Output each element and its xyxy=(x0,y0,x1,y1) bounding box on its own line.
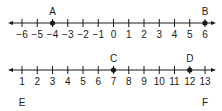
tick-label: −6 xyxy=(16,30,27,40)
tick-label: 7 xyxy=(111,77,117,87)
point-label-f: F xyxy=(202,98,208,108)
point-label-b: B xyxy=(202,7,209,17)
tick-label: 5 xyxy=(80,77,86,87)
tick-label: 6 xyxy=(95,77,101,87)
tick-label: 10 xyxy=(154,77,165,87)
tick-label: 4 xyxy=(172,30,178,40)
tick-label: 3 xyxy=(156,30,162,40)
point-label-d: D xyxy=(186,54,193,64)
arrow-left-icon xyxy=(8,68,13,72)
tick-label: −3 xyxy=(62,30,73,40)
tick-label: 0 xyxy=(111,30,117,40)
tick-label: 4 xyxy=(65,77,71,87)
arrow-right-icon xyxy=(211,21,216,25)
tick-label: 12 xyxy=(184,77,195,87)
tick-label: 11 xyxy=(169,77,179,87)
tick-label: −2 xyxy=(77,30,88,40)
arrow-right-icon xyxy=(211,68,216,72)
point-d-dot xyxy=(187,67,192,72)
tick-label: −4 xyxy=(47,30,58,40)
number-line-1 xyxy=(8,19,216,27)
tick-label: 3 xyxy=(50,77,56,87)
tick-label: 1 xyxy=(19,77,25,87)
point-a-dot xyxy=(50,20,55,25)
tick-label: 1 xyxy=(126,30,132,40)
tick-label: 5 xyxy=(187,30,193,40)
tick-label: 2 xyxy=(34,77,40,87)
tick-label: 9 xyxy=(141,77,147,87)
tick-label: −5 xyxy=(32,30,43,40)
tick-label: 8 xyxy=(126,77,132,87)
point-c-dot xyxy=(111,67,116,72)
tick-label: −1 xyxy=(93,30,104,40)
point-b-dot xyxy=(202,20,207,25)
tick-label: 2 xyxy=(141,30,147,40)
arrow-left-icon xyxy=(8,21,13,25)
number-line-diagram: −6−5−4−3−2−10123456AB12345678910111213CD… xyxy=(0,0,222,111)
tick-label: 13 xyxy=(199,77,210,87)
point-label-e: E xyxy=(19,98,26,108)
point-label-c: C xyxy=(110,54,117,64)
tick-label: 6 xyxy=(202,30,208,40)
number-line-2 xyxy=(8,66,216,74)
point-label-a: A xyxy=(49,7,56,17)
